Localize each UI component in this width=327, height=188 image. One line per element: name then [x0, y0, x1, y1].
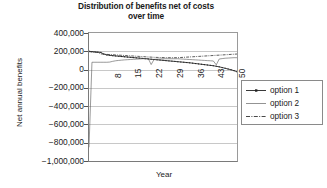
x-tick-label: 43: [216, 69, 226, 78]
series-marker: [177, 61, 178, 62]
series-marker: [121, 56, 122, 57]
series-marker: [118, 56, 119, 57]
series-marker: [219, 66, 220, 67]
legend-item-option-1[interactable]: option 1: [245, 84, 320, 97]
series-marker: [189, 62, 190, 63]
legend-key-option-3: [245, 112, 267, 121]
x-tick-label: 36: [196, 69, 206, 78]
series-marker: [233, 70, 234, 71]
series-marker: [100, 52, 101, 53]
series-marker: [210, 65, 211, 66]
x-tick-label: 15: [133, 69, 143, 78]
series-marker: [168, 60, 169, 61]
series-marker: [165, 60, 166, 61]
y-tick-label: 0: [0, 64, 84, 74]
chart-title: Distribution of benefits net of costs ov…: [46, 1, 246, 21]
series-marker: [115, 55, 116, 56]
series-marker: [207, 64, 208, 65]
y-tick-label: 200,000: [0, 46, 84, 56]
series-marker: [112, 55, 113, 56]
legend-label-option-1: option 1: [267, 86, 299, 95]
series-marker: [136, 57, 137, 58]
series-marker: [213, 65, 214, 66]
series-marker: [183, 62, 184, 63]
series-marker: [139, 58, 140, 59]
series-marker: [162, 60, 163, 61]
series-marker: [171, 61, 172, 62]
y-tick-label: −600,000: [0, 119, 84, 129]
series-marker: [228, 68, 229, 69]
x-axis-tick-labels: 8152229364350: [88, 76, 240, 106]
chart-title-line-2: over time: [46, 11, 246, 21]
y-tick-label: −800,000: [0, 137, 84, 147]
chart-figure: Distribution of benefits net of costs ov…: [0, 0, 327, 188]
series-marker: [127, 57, 128, 58]
y-tick-label: 400,000: [0, 28, 84, 38]
series-marker: [204, 64, 205, 65]
series-marker: [133, 57, 134, 58]
y-tick-label: −1,000,000: [0, 156, 84, 166]
series-line-option-3: [89, 52, 237, 58]
y-tick-label: −200,000: [0, 82, 84, 92]
series-marker: [198, 63, 199, 64]
series-marker: [201, 64, 202, 65]
series-marker: [159, 60, 160, 61]
series-marker: [124, 56, 125, 57]
series-marker: [151, 59, 152, 60]
legend-label-option-2: option 2: [267, 99, 299, 108]
x-tick-label: 22: [154, 69, 164, 78]
legend-item-option-3[interactable]: option 3: [245, 110, 320, 123]
series-marker: [180, 61, 181, 62]
y-tick-label: −400,000: [0, 101, 84, 111]
x-tick-label: 8: [113, 73, 123, 78]
x-tick-label: 50: [237, 69, 247, 78]
legend-label-option-3: option 3: [267, 112, 299, 121]
x-tick-label: 29: [175, 69, 185, 78]
series-marker: [231, 69, 232, 70]
series-marker: [216, 66, 217, 67]
legend-key-option-1: [245, 86, 267, 95]
legend-key-option-2: [245, 99, 267, 108]
legend-item-option-2[interactable]: option 2: [245, 97, 320, 110]
series-marker: [186, 62, 187, 63]
series-marker: [174, 61, 175, 62]
chart-legend[interactable]: option 1 option 2 option 3: [241, 80, 323, 125]
series-marker: [130, 57, 131, 58]
series-marker: [192, 63, 193, 64]
chart-title-line-1: Distribution of benefits net of costs: [78, 1, 214, 11]
y-axis-tick-labels: 400,000200,0000−200,000−400,000−600,000−…: [0, 32, 84, 162]
series-marker: [195, 63, 196, 64]
x-axis-title: Year: [88, 170, 240, 179]
